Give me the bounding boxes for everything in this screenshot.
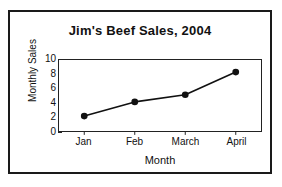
data-point-marker — [232, 69, 239, 76]
data-point-marker — [131, 99, 138, 106]
y-axis-title: Monthly Sales — [27, 35, 38, 107]
y-tick-mark — [58, 132, 62, 133]
x-axis-title: Month — [58, 154, 262, 166]
y-tick-label: 6 — [40, 83, 56, 93]
y-tick-label: 8 — [40, 69, 56, 79]
figure-panel: Jim's Beef Sales, 2004 Monthly Sales 024… — [8, 10, 272, 174]
line-series-svg — [59, 60, 261, 131]
data-point-marker — [182, 91, 189, 98]
series-markers — [81, 69, 239, 135]
x-tick-label: April — [226, 136, 246, 148]
y-tick-label: 0 — [40, 127, 56, 137]
y-tick-label: 4 — [40, 98, 56, 108]
y-axis-tick-labels: 0246810 — [38, 59, 56, 132]
series-line — [84, 72, 236, 116]
plot-area — [58, 59, 262, 132]
y-tick-label: 2 — [40, 112, 56, 122]
x-tick-label: Feb — [126, 136, 143, 148]
x-axis-tick-labels: JanFebMarchApril — [58, 136, 262, 150]
x-tick-label: March — [172, 136, 200, 148]
chart-title: Jim's Beef Sales, 2004 — [10, 23, 270, 38]
x-tick-label: Jan — [75, 136, 91, 148]
y-tick-label: 10 — [40, 54, 56, 64]
data-point-marker — [81, 113, 88, 120]
